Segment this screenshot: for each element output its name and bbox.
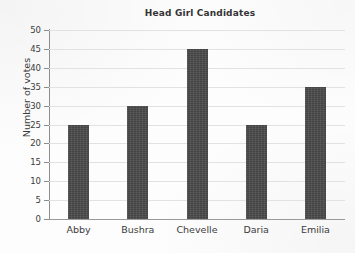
y-axis-title: Number of votes	[21, 18, 32, 178]
bar-chevelle	[187, 49, 208, 219]
y-tick-label-15: 15	[15, 158, 41, 167]
bar-abby	[68, 125, 89, 220]
y-tick-label-40: 40	[15, 64, 41, 73]
y-tick-label-25: 25	[15, 121, 41, 130]
plot-area	[49, 30, 345, 219]
gridline-50	[49, 30, 345, 31]
bar-bushra	[127, 106, 148, 219]
y-tick-label-5: 5	[15, 196, 41, 205]
gridline-0	[49, 219, 345, 220]
y-tick-label-45: 45	[15, 45, 41, 54]
y-tick-label-30: 30	[15, 102, 41, 111]
bar-daria	[246, 125, 267, 220]
y-tick-label-10: 10	[15, 177, 41, 186]
y-tick-label-0: 0	[15, 215, 41, 224]
bar-emilia	[305, 87, 326, 219]
y-tick-label-20: 20	[15, 139, 41, 148]
y-tick-label-50: 50	[15, 26, 41, 35]
y-tick-label-35: 35	[15, 83, 41, 92]
chart-title: Head Girl Candidates	[50, 8, 350, 18]
bar-chart-figure: Head Girl Candidates Number of votes 051…	[0, 0, 355, 253]
x-axis-label-emilia: Emilia	[280, 224, 350, 235]
